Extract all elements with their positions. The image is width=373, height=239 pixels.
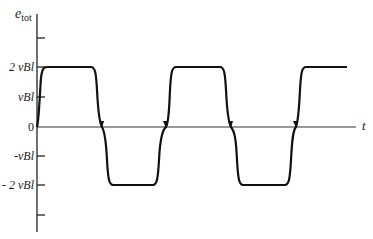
square-wave-chart [0,0,373,239]
tick-label-vbl: vBl [0,91,34,103]
tick-label-neg-2vbl: - 2 vBl [0,179,34,191]
tick-label-neg-vbl: -vBl [0,150,34,162]
waveform-e-tot [37,67,347,185]
y-axis-title: etot [15,6,32,23]
x-axis-title: t [362,118,366,134]
tick-label-2vbl: 2 vBl [0,61,34,73]
tick-label-zero: 0 [0,121,34,133]
